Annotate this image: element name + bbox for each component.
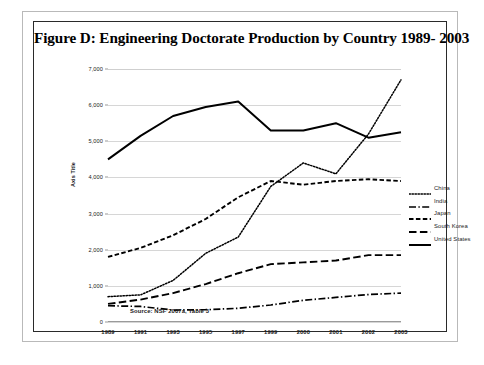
source-note: Source: NSF 2007a, Table 3 <box>130 308 209 314</box>
y-tick-label: 7,000 <box>89 66 104 72</box>
legend-item-japan[interactable]: Japan <box>409 207 484 220</box>
series-lines <box>108 69 401 322</box>
legend: ChinaIndiaJapanSouth KoreaUnited States <box>409 182 484 245</box>
legend-item-india[interactable]: India <box>409 195 484 208</box>
legend-label: China <box>434 185 450 191</box>
x-tick-label: 2003 <box>394 329 407 335</box>
legend-label: United States <box>434 236 471 242</box>
y-tick-label: 5,000 <box>89 138 104 144</box>
legend-item-united-states[interactable]: United States <box>409 232 484 245</box>
figure-outer-frame: Figure D: Engineering Doctorate Producti… <box>22 11 458 342</box>
x-tick-label: 1999 <box>264 329 277 335</box>
legend-label: South Korea <box>434 223 468 229</box>
x-tick-label: 2000 <box>297 329 310 335</box>
plot-wrapper: Axis Title 01,0002,0003,0004,0005,0006,0… <box>34 22 448 333</box>
y-tick-label: 4,000 <box>89 174 104 180</box>
y-axis-title: Axis Title <box>70 162 76 187</box>
y-tick-label: 2,000 <box>89 247 104 253</box>
x-tick-label: 2002 <box>362 329 375 335</box>
chart-frame: Figure D: Engineering Doctorate Producti… <box>33 21 447 332</box>
y-tick-label: 1,000 <box>89 283 104 289</box>
legend-swatch <box>409 209 431 217</box>
x-tick-label: 2001 <box>329 329 342 335</box>
y-tick-label: 6,000 <box>89 102 104 108</box>
x-tick-label: 1989 <box>101 329 114 335</box>
legend-label: India <box>434 198 447 204</box>
x-tick-label: 1997 <box>232 329 245 335</box>
legend-swatch <box>409 235 431 243</box>
plot-area: 01,0002,0003,0004,0005,0006,0007,000 198… <box>108 69 401 322</box>
x-tick-label: 1991 <box>134 329 147 335</box>
series-line-south-korea <box>108 255 401 304</box>
gridline <box>108 322 401 323</box>
legend-swatch <box>409 184 431 192</box>
legend-item-south-korea[interactable]: South Korea <box>409 220 484 233</box>
x-tick-label: 1993 <box>166 329 179 335</box>
legend-swatch <box>409 222 431 230</box>
legend-item-china[interactable]: China <box>409 182 484 195</box>
series-line-united-states <box>108 102 401 160</box>
y-tick-label: 3,000 <box>89 211 104 217</box>
series-line-japan <box>108 179 401 257</box>
x-tick-label: 1995 <box>199 329 212 335</box>
legend-swatch <box>409 197 431 205</box>
legend-label: Japan <box>434 210 451 216</box>
y-tick-label: 0 <box>100 319 103 325</box>
